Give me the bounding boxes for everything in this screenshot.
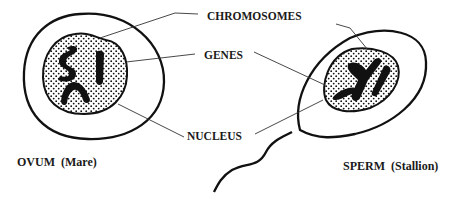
leader-nucleus-sperm: [255, 100, 323, 134]
ovum-cell: [24, 14, 164, 139]
cell-diagram: CHROMOSOMES GENES NUCLEUS OVUM (Mare) SP…: [0, 0, 467, 203]
caption-ovum: OVUM (Mare): [17, 155, 97, 169]
label-nucleus: NUCLEUS: [187, 130, 242, 142]
ovum-chromosome: [96, 51, 104, 85]
label-chromosomes: CHROMOSOMES: [207, 10, 302, 22]
caption-sperm: SPERM (Stallion): [343, 159, 438, 173]
label-genes: GENES: [204, 49, 243, 61]
